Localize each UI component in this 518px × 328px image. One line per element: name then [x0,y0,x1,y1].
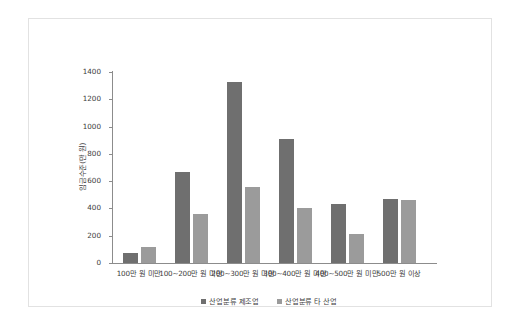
bar-group [321,72,373,263]
bar-group [373,72,425,263]
bar[interactable] [175,172,190,263]
y-axis-tick: 1000 [29,127,113,128]
legend-item[interactable]: 산업분류 제조업 [201,296,259,306]
y-axis-title-text: 임금수준(만 원) [77,143,87,191]
y-axis-title: 임금수준(만 원) [75,119,89,215]
y-axis-tick-label: 400 [87,203,101,213]
y-axis-tick-label: 1200 [83,94,101,104]
chart-figure: 임금수준(만 원) 0200400600800100012001400 100만… [0,0,518,328]
bar-group [165,72,217,263]
bar-group [269,72,321,263]
legend-label: 산업분류 제조업 [209,296,259,306]
bar[interactable] [349,234,364,263]
y-axis-tick: 800 [29,154,113,155]
y-axis-tick-label: 200 [87,231,101,241]
bar[interactable] [245,187,260,263]
legend-swatch-icon [277,299,282,304]
bar-group [217,72,269,263]
y-axis-tick-label: 1000 [83,122,101,132]
bar-group [113,72,165,263]
y-axis-tick: 0 [29,263,113,264]
legend-item[interactable]: 산업분류 타 산업 [277,296,337,306]
bar[interactable] [331,204,346,263]
bar[interactable] [297,208,312,263]
chart-frame: 임금수준(만 원) 0200400600800100012001400 100만… [28,18,492,307]
x-axis-category-label: 500만 원 이상 [363,268,435,280]
bar[interactable] [141,247,156,263]
bar[interactable] [279,139,294,263]
y-axis-tick: 600 [29,181,113,182]
y-axis-tick: 1400 [29,72,113,73]
y-axis-tick-label: 800 [87,149,101,159]
x-axis-category-labels: 100만 원 미만100~200만 원 미만200~300만 원 미만300~4… [113,268,425,282]
legend-label: 산업분류 타 산업 [285,296,337,306]
y-axis-tick: 400 [29,208,113,209]
y-axis-tick-label: 0 [96,258,101,268]
bar[interactable] [383,199,398,263]
y-axis-tick-mark [109,263,113,264]
legend-swatch-icon [201,299,206,304]
y-axis-tick: 200 [29,236,113,237]
plot-area [113,72,425,263]
x-axis-line [112,263,437,264]
y-axis-tick-label: 600 [87,176,101,186]
chart-legend: 산업분류 제조업산업분류 타 산업 [113,295,425,307]
bar[interactable] [193,214,208,263]
bar[interactable] [227,82,242,263]
y-axis-tick: 1200 [29,99,113,100]
y-axis-tick-label: 1400 [83,67,101,77]
bar[interactable] [123,253,138,263]
bar[interactable] [401,200,416,263]
